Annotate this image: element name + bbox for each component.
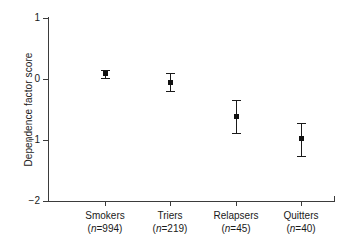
x-tick-mark-quitters xyxy=(301,201,302,206)
x-tick-mark-smokers xyxy=(105,201,106,206)
y-tick-mark-0 xyxy=(43,79,48,80)
x-axis-end-tick xyxy=(334,196,335,202)
n-value-quitters: =40 xyxy=(295,223,312,234)
errorbar-cap-upper-relapsers xyxy=(232,100,241,101)
x-tick-mark-relapsers xyxy=(236,201,237,206)
y-tick-mark-neg1 xyxy=(43,140,48,141)
errorbar-cap-lower-smokers xyxy=(101,78,110,79)
datapoint-triers xyxy=(168,80,173,85)
x-category-label-quitters: Quitters (n=40) xyxy=(258,209,344,235)
n-value-triers: =219 xyxy=(162,223,185,234)
dependence-factor-score-chart: Dependence factor score 1 0 −1 −2 Smoker… xyxy=(0,0,352,248)
datapoint-relapsers xyxy=(234,114,239,119)
datapoint-quitters xyxy=(299,136,304,141)
n-value-relapsers: =45 xyxy=(230,223,247,234)
errorbar-cap-lower-quitters xyxy=(297,156,306,157)
x-category-count-quitters: (n=40) xyxy=(258,222,344,235)
y-tick-label-1: 1 xyxy=(22,12,40,23)
x-tick-mark-triers xyxy=(170,201,171,206)
errorbar-cap-upper-quitters xyxy=(297,123,306,124)
y-tick-label-neg2: −2 xyxy=(18,195,40,206)
y-tick-label-0: 0 xyxy=(22,73,40,84)
y-axis-title: Dependence factor score xyxy=(23,25,34,195)
y-tick-label-neg1: −1 xyxy=(18,134,40,145)
errorbar-cap-lower-triers xyxy=(166,91,175,92)
y-tick-mark-1 xyxy=(43,18,48,19)
errorbar-cap-lower-relapsers xyxy=(232,133,241,134)
datapoint-smokers xyxy=(103,71,108,76)
y-axis-line xyxy=(48,17,49,202)
errorbar-cap-upper-triers xyxy=(166,73,175,74)
x-axis-line xyxy=(48,201,335,202)
n-value-smokers: =994 xyxy=(97,223,120,234)
y-tick-mark-neg2 xyxy=(43,201,48,202)
x-category-name-quitters: Quitters xyxy=(258,209,344,222)
